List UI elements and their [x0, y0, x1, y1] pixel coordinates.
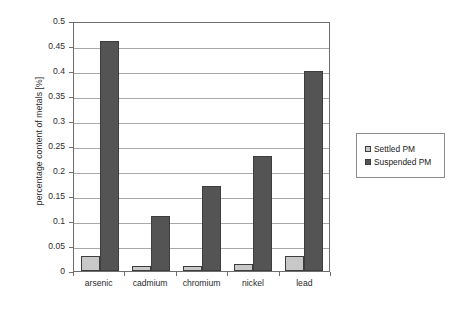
bar-arsenic-suspended-pm — [100, 41, 119, 271]
y-axis-tick-label: 0.15 — [48, 191, 65, 201]
x-axis-label-chromium: chromium — [176, 278, 227, 288]
x-axis-label-arsenic: arsenic — [73, 278, 124, 288]
plot-area — [73, 22, 330, 272]
bar-nickel-settled-pm — [234, 264, 253, 272]
legend-item-settled-pm: Settled PM — [365, 144, 438, 154]
chart-legend: Settled PM Suspended PM — [356, 133, 445, 178]
x-axis-tick-mark — [73, 272, 74, 276]
y-axis-tick-label: 0.25 — [48, 141, 65, 151]
bar-lead-suspended-pm — [304, 71, 323, 271]
y-axis-tick-label: 0 — [60, 266, 65, 276]
bar-lead-settled-pm — [285, 256, 304, 271]
bar-cadmium-settled-pm — [132, 266, 151, 271]
y-axis-tick-label: 0.5 — [53, 16, 65, 26]
bar-arsenic-settled-pm — [81, 256, 100, 271]
legend-label-suspended-pm: Suspended PM — [374, 157, 431, 167]
x-axis-tick-mark — [124, 272, 125, 276]
bar-group-arsenic — [74, 23, 125, 271]
bar-group-chromium — [176, 23, 227, 271]
x-axis-label-lead: lead — [279, 278, 330, 288]
y-axis-tick-label: 0.35 — [48, 91, 65, 101]
legend-swatch-icon-settled-pm — [365, 146, 371, 152]
x-axis-tick-mark — [176, 272, 177, 276]
x-axis-label-nickel: nickel — [227, 278, 278, 288]
y-axis-tick-label: 0.3 — [53, 116, 65, 126]
y-axis-ticks: 00.050.10.150.20.250.30.350.40.450.5 — [0, 22, 73, 272]
bar-chart: percentage content of metals [%] 00.050.… — [0, 0, 459, 311]
legend-swatch-icon-suspended-pm — [365, 159, 371, 165]
bar-chromium-settled-pm — [183, 266, 202, 271]
y-axis-tick-label: 0.45 — [48, 41, 65, 51]
x-axis-tick-mark — [330, 272, 331, 276]
x-axis-ticks — [73, 272, 330, 277]
x-axis-label-cadmium: cadmium — [124, 278, 175, 288]
bar-group-nickel — [227, 23, 278, 271]
bar-nickel-suspended-pm — [253, 156, 272, 271]
bar-chromium-suspended-pm — [202, 186, 221, 271]
bar-group-cadmium — [125, 23, 176, 271]
legend-label-settled-pm: Settled PM — [374, 144, 415, 154]
x-axis-tick-mark — [227, 272, 228, 276]
x-axis-labels: arseniccadmiumchromiumnickellead — [73, 278, 330, 288]
bar-group-lead — [278, 23, 329, 271]
y-axis-tick-label: 0.2 — [53, 166, 65, 176]
y-axis-tick-label: 0.05 — [48, 241, 65, 251]
bars-layer — [74, 23, 329, 271]
y-axis-tick-label: 0.4 — [53, 66, 65, 76]
bar-cadmium-suspended-pm — [151, 216, 170, 271]
x-axis-tick-mark — [279, 272, 280, 276]
legend-item-suspended-pm: Suspended PM — [365, 157, 438, 167]
y-axis-tick-label: 0.1 — [53, 216, 65, 226]
